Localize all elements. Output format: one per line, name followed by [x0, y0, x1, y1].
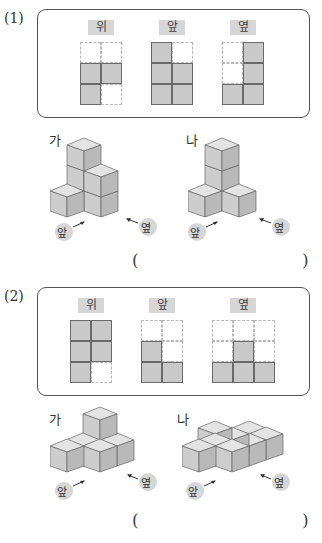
- answer-open-paren-2: (: [132, 510, 139, 530]
- tag-front-2-ga: 앞: [57, 483, 67, 499]
- side-view-grid: [222, 42, 264, 105]
- view-label-top-2: 위: [78, 298, 104, 313]
- view-label-front-2: 앞: [149, 298, 175, 313]
- answer-close-paren-2: ): [302, 510, 309, 530]
- problem-2-number: (2): [4, 288, 24, 304]
- front-view-grid: [151, 42, 193, 105]
- tag-side-1-na: 옆: [274, 219, 284, 235]
- answer-blank-2[interactable]: [142, 512, 302, 532]
- tag-side-1-ga: 옆: [141, 219, 151, 235]
- answer-open-paren-1: (: [132, 250, 139, 270]
- tag-side-2-na: 옆: [274, 474, 284, 490]
- view-label-side: 옆: [230, 20, 256, 35]
- tag-front-2-na: 앞: [188, 483, 198, 499]
- answer-blank-1[interactable]: [142, 252, 302, 272]
- view-label-side-2: 옆: [230, 298, 256, 313]
- tag-front-1-na: 앞: [190, 224, 200, 240]
- problem-1-number: (1): [4, 10, 24, 26]
- tag-side-2-ga: 옆: [141, 474, 151, 490]
- top-view-grid-2: [70, 320, 112, 383]
- top-view-grid: [80, 42, 122, 105]
- view-label-top: 위: [88, 20, 114, 35]
- front-view-grid-2: [141, 320, 183, 383]
- view-label-front: 앞: [159, 20, 185, 35]
- tag-front-1-ga: 앞: [57, 224, 67, 240]
- answer-close-paren-1: ): [302, 250, 309, 270]
- side-view-grid-2: [212, 320, 275, 383]
